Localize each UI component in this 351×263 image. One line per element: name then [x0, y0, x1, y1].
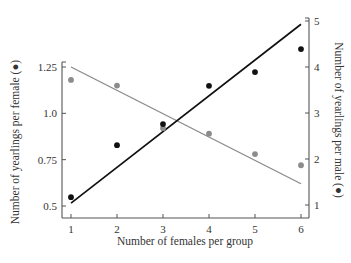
right-y-tick-label: 1 — [314, 199, 320, 211]
chart-container: 1234560.50.751.01.2512345 Number of fema… — [0, 0, 351, 263]
left-y-axis-title: Number of yearlings per female (●) — [9, 60, 22, 225]
trend-lines — [71, 24, 301, 203]
right-y-tick-label: 4 — [314, 61, 320, 73]
right-y-axis-title: Number of yearlings per male (●) — [332, 42, 345, 198]
dual-axis-scatter-plot: 1234560.50.751.01.2512345 Number of fema… — [0, 0, 351, 263]
x-tick-label: 2 — [114, 223, 120, 235]
right-y-tick-label: 2 — [314, 153, 320, 165]
female-data-point — [114, 83, 120, 89]
right-y-tick-label: 3 — [314, 107, 320, 119]
female-data-point — [68, 77, 74, 83]
left-y-tick-label: 1.0 — [43, 107, 57, 119]
left-y-tick-label: 0.5 — [43, 200, 57, 212]
female-trend-line — [71, 67, 301, 184]
x-axis-title: Number of females per group — [117, 235, 253, 248]
x-tick-label: 4 — [206, 223, 212, 235]
x-tick-label: 1 — [68, 223, 74, 235]
x-tick-label: 5 — [252, 223, 258, 235]
male-data-point — [68, 194, 74, 200]
male-data-point — [160, 121, 166, 127]
axes: 1234560.50.751.01.2512345 — [38, 15, 320, 235]
male-trend-line — [71, 24, 301, 203]
male-data-point — [206, 83, 212, 89]
left-y-tick-label: 1.25 — [38, 61, 58, 73]
right-y-tick-label: 5 — [314, 15, 320, 27]
female-data-point — [206, 131, 212, 137]
left-y-tick-label: 0.75 — [38, 154, 58, 166]
female-data-point — [298, 162, 304, 168]
male-data-point — [114, 142, 120, 148]
male-data-point — [298, 46, 304, 52]
x-tick-label: 3 — [160, 223, 166, 235]
male-data-point — [252, 69, 258, 75]
female-data-point — [252, 151, 258, 157]
x-tick-label: 6 — [298, 223, 304, 235]
